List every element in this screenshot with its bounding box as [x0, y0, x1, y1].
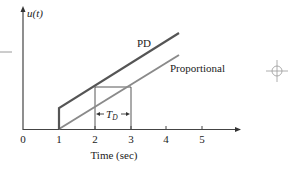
proportional-line	[59, 55, 179, 129]
tick-label: 3	[128, 133, 134, 145]
y-axis-label: u(t)	[27, 7, 43, 20]
tick-label: 2	[92, 133, 98, 145]
arrow-right-icon	[126, 112, 130, 116]
tick-label: 0	[20, 133, 26, 145]
y-axis-arrow-icon	[21, 6, 26, 12]
proportional-label: Proportional	[170, 62, 225, 74]
tick-label: 1	[56, 133, 62, 145]
pd-vs-proportional-diagram: u(t) 0 1 2 3 4 5 Time (sec) TD Proportio…	[0, 0, 304, 169]
pd-line	[59, 33, 179, 129]
arrow-left-icon	[96, 112, 100, 116]
tick-label: 4	[163, 133, 169, 145]
x-axis-label: Time (sec)	[91, 149, 138, 162]
td-bracket	[95, 87, 131, 129]
registration-mark-icon	[266, 60, 288, 82]
tick-label: 5	[199, 133, 205, 145]
td-label: TD	[106, 108, 118, 122]
pd-label: PD	[137, 37, 151, 49]
x-tick-labels: 0 1 2 3 4 5	[20, 133, 205, 145]
x-axis-arrow-icon	[235, 127, 241, 132]
